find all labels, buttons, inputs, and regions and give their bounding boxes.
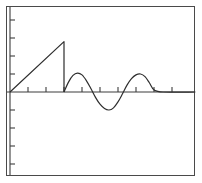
- x-axis-tick-marks: [28, 87, 172, 92]
- data-traces-group: [10, 42, 195, 110]
- plot-area: [0, 0, 202, 183]
- trace-ramp: [10, 42, 64, 92]
- screenshot-canvas: [0, 0, 202, 183]
